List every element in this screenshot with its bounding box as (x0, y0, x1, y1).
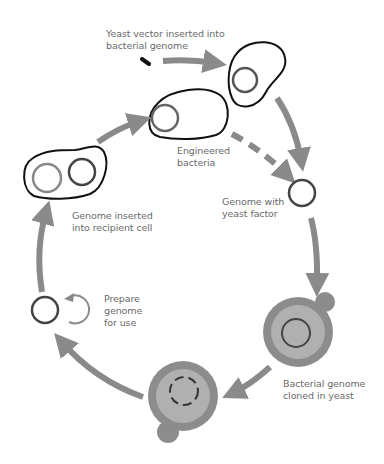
yeast-cell-bottom (148, 361, 218, 443)
arrow-genome-to-yeast (311, 218, 317, 285)
genome-ring (233, 68, 257, 92)
label-yeast-vector: Yeast vector inserted into bacterial gen… (106, 28, 225, 52)
arrow-prepare-to-recipient (39, 212, 46, 292)
label-prepare-genome: Prepare genome for use (104, 293, 142, 329)
arrow-yeast-right-to-yeast-bottom (233, 367, 270, 393)
genome-with-yeast-factor (289, 180, 315, 206)
label-genome-yeast-factor: Genome with yeast factor (222, 196, 284, 220)
recipient-cell (24, 146, 106, 198)
arrow-bacterium-to-genome (277, 98, 301, 160)
label-genome-inserted: Genome inserted into recipient cell (72, 210, 153, 234)
genome-ring-donor (33, 164, 61, 192)
arrow-vector-to-bacterium (163, 60, 215, 63)
prepare-loop-arrow (64, 293, 89, 323)
bacterium-top-right (229, 42, 286, 106)
genome-ring-native (69, 159, 95, 185)
arrow-engineered-to-genome-dashed (232, 134, 287, 175)
yeast-cell-right (263, 292, 335, 367)
arrow-recipient-to-engineered (98, 121, 140, 142)
genome-ring (152, 105, 178, 131)
label-cloned-in-yeast: Bacterial genome cloned in yeast (283, 378, 365, 402)
prepared-genome (32, 297, 58, 323)
arrow-yeast-to-prepare (62, 342, 143, 397)
label-engineered-bacteria: Engineered bacteria (177, 145, 230, 169)
yeast-vector-fragment (142, 59, 149, 64)
bacterium-engineered (149, 89, 228, 139)
